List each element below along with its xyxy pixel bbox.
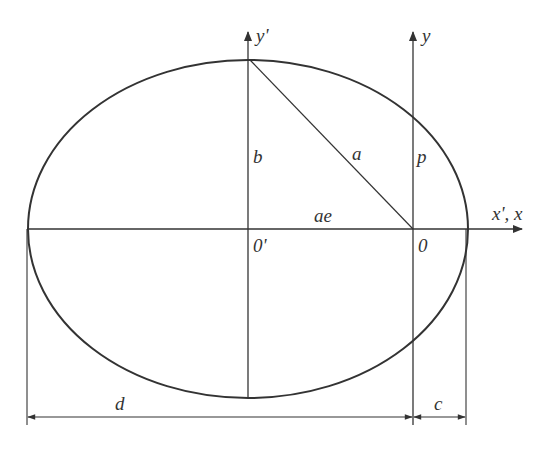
y-label: y <box>420 25 431 46</box>
focus-label: 0 <box>418 235 428 256</box>
y-prime-label: y' <box>254 25 269 46</box>
x-label: x', x <box>491 203 523 224</box>
d-label: d <box>115 393 125 414</box>
center-label: 0' <box>253 235 268 256</box>
c-label: c <box>434 393 443 414</box>
semi-major-line <box>250 60 413 229</box>
ae-label: ae <box>314 205 332 226</box>
p-label: p <box>415 146 427 167</box>
a-label: a <box>352 143 362 164</box>
ellipse-diagram: y' y x', x b a p ae 0' 0 d c <box>0 0 552 456</box>
b-label: b <box>253 146 263 167</box>
